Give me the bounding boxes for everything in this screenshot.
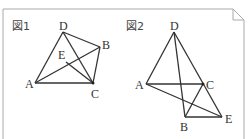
figure-2: 図2 D A C B E <box>126 19 232 134</box>
segment-EC <box>66 62 93 83</box>
segment-DE <box>174 32 222 117</box>
segment-DB <box>63 32 100 47</box>
diagram-canvas: 図1 D B E A C 図2 D A C B E <box>0 0 249 139</box>
point-E-label: E <box>225 112 232 126</box>
figure-1: 図1 D B E A C <box>12 19 110 101</box>
point-C-dot <box>202 83 205 86</box>
point-D-label: D <box>170 19 179 33</box>
figure-1-label: 図1 <box>12 20 30 33</box>
segment-DC <box>63 32 93 83</box>
frame-border <box>3 9 244 139</box>
segment-AD <box>146 32 174 84</box>
point-C-label: C <box>206 78 214 92</box>
point-C-label: C <box>91 87 99 101</box>
figure-2-label: 図2 <box>126 20 144 33</box>
segment-DB <box>174 32 185 117</box>
segment-BC <box>93 47 100 83</box>
segment-BC <box>185 84 203 117</box>
point-B-label: B <box>102 38 110 52</box>
point-C-dot <box>92 82 95 85</box>
point-E-label: E <box>58 48 65 62</box>
point-B-label: B <box>180 120 188 134</box>
point-D-label: D <box>59 19 68 33</box>
point-A-label: A <box>135 78 144 92</box>
point-A-label: A <box>25 77 34 91</box>
